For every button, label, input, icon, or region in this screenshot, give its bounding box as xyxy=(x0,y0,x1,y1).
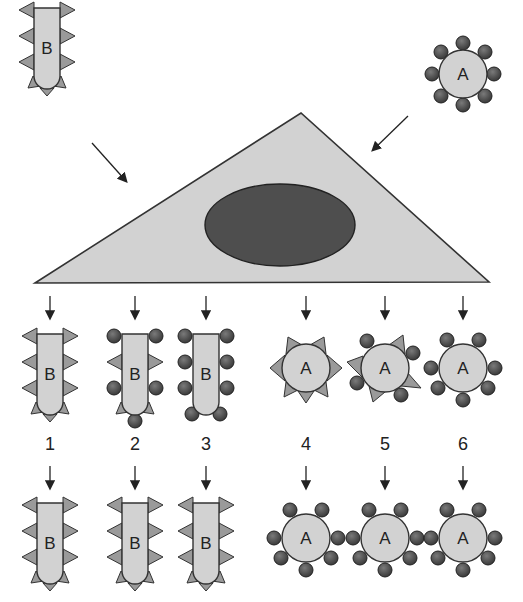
outcome-4-bottom-cell: A xyxy=(267,503,345,577)
outcome-6-bottom-cell: A xyxy=(424,503,502,577)
outcome-number-3: 3 xyxy=(201,434,211,454)
svg-text:A: A xyxy=(457,359,469,378)
arrows-row-1 xyxy=(50,296,463,318)
arrow-a-to-host xyxy=(373,116,408,150)
arrows-row-2 xyxy=(50,466,463,488)
svg-text:B: B xyxy=(129,365,140,384)
svg-text:A: A xyxy=(300,359,312,378)
svg-text:B: B xyxy=(200,365,211,384)
outcome-number-4: 4 xyxy=(301,434,311,454)
outcome-3-top-cell: B xyxy=(178,329,234,421)
arrow-b-to-host xyxy=(92,143,126,181)
source-cell-b-label: B xyxy=(41,39,52,58)
outcome-1-bottom-cell: B xyxy=(22,497,78,591)
outcome-2-bottom-cell: B xyxy=(107,497,163,591)
svg-text:B: B xyxy=(44,365,55,384)
svg-text:A: A xyxy=(379,359,391,378)
source-cell-a: A xyxy=(425,36,501,112)
svg-text:A: A xyxy=(457,529,469,548)
outcome-4-top-cell: A xyxy=(270,337,342,403)
svg-text:B: B xyxy=(200,534,211,553)
host-nucleus xyxy=(205,184,355,266)
source-cell-a-label: A xyxy=(457,65,469,84)
outcome-3-bottom-cell: B xyxy=(178,497,234,591)
svg-text:A: A xyxy=(300,529,312,548)
outcome-5-top-cell: A xyxy=(347,334,421,402)
outcome-number-1: 1 xyxy=(45,434,55,454)
outcome-number-2: 2 xyxy=(130,434,140,454)
outcome-6-top-cell: A xyxy=(424,333,502,407)
source-cell-b: B xyxy=(19,2,75,96)
outcome-number-5: 5 xyxy=(380,434,390,454)
svg-text:B: B xyxy=(129,534,140,553)
svg-text:A: A xyxy=(379,529,391,548)
outcome-numbers: 1 2 3 4 5 6 xyxy=(45,434,468,454)
outcome-1-top-cell: B xyxy=(22,328,78,422)
outcome-number-6: 6 xyxy=(458,434,468,454)
outcome-2-top-cell: B xyxy=(107,329,163,428)
svg-text:B: B xyxy=(44,534,55,553)
diagram-canvas: B A B B xyxy=(0,0,523,602)
outcome-5-bottom-cell: A xyxy=(346,503,424,577)
